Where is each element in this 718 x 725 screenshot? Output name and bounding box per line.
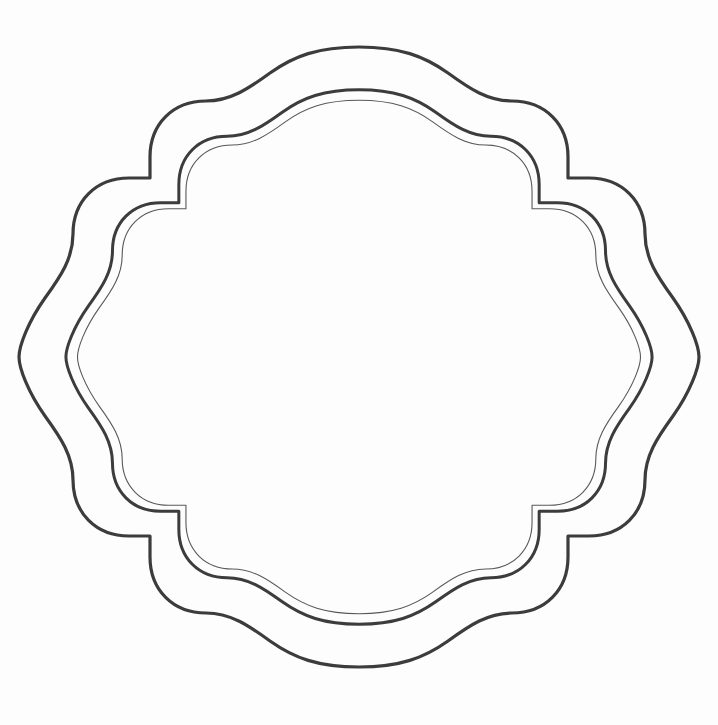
frame-interior-fill	[77, 100, 640, 613]
interior-fill-shape	[77, 100, 640, 613]
ornamental-frame-graphic: Ornamental Scalloped Frame Outline	[0, 0, 718, 725]
artwork-canvas: Ornamental Scalloped Frame Outline	[0, 0, 718, 725]
